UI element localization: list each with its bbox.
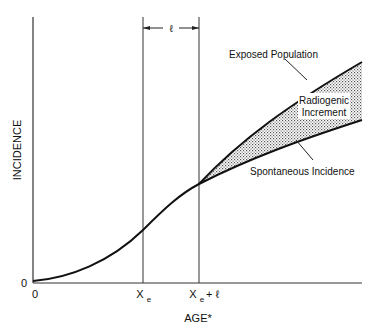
y-axis-title: INCIDENCE <box>11 120 23 181</box>
x-tick-xe: X e <box>136 288 151 304</box>
spontaneous-leader <box>296 140 313 160</box>
svg-text:e: e <box>147 295 152 304</box>
spontaneous-incidence-curve <box>33 120 362 281</box>
svg-text:Radiogenic: Radiogenic <box>299 95 349 106</box>
svg-text:Increment: Increment <box>302 107 347 118</box>
svg-text:e: e <box>200 295 205 304</box>
exposed-population-label: Exposed Population <box>229 49 318 60</box>
interval-label: ℓ <box>169 23 173 34</box>
chart: ℓ Exposed Population Radiogenic Incremen… <box>0 0 375 336</box>
svg-text:X: X <box>136 288 144 300</box>
x-axis-title: AGE* <box>184 312 212 324</box>
radiogenic-increment-label: Radiogenic Increment <box>298 93 350 119</box>
exposed-leader <box>285 59 307 80</box>
x-tick-0: 0 <box>32 288 38 300</box>
svg-text:X: X <box>189 288 197 300</box>
y-tick-0: 0 <box>21 277 27 289</box>
x-tick-xe-plus-l: X e + ℓ <box>189 288 219 304</box>
spontaneous-incidence-label: Spontaneous Incidence <box>250 166 355 177</box>
svg-text:+ ℓ: + ℓ <box>206 288 219 300</box>
